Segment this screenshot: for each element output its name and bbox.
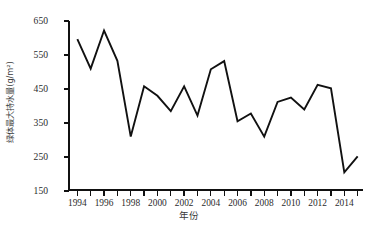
x-tick — [90, 191, 91, 196]
x-tick — [317, 191, 318, 196]
x-tick — [210, 191, 211, 196]
x-tick — [304, 191, 305, 196]
x-tick — [77, 191, 78, 196]
plot-area: 650550450350250150 199419961998200020022… — [68, 21, 363, 191]
data-series-line — [68, 21, 363, 191]
y-tick-label: 650 — [8, 16, 48, 26]
x-tick — [197, 191, 198, 196]
x-tick — [170, 191, 171, 196]
y-tick-label: 550 — [8, 50, 48, 60]
x-tick — [357, 191, 358, 196]
x-tick — [330, 191, 331, 196]
x-tick — [250, 191, 251, 196]
x-tick — [183, 191, 184, 196]
x-tick — [237, 191, 238, 196]
x-tick — [277, 191, 278, 196]
y-tick-label: 450 — [8, 84, 48, 94]
x-tick — [264, 191, 265, 196]
figure-root: 绿体最大持水量(g/m²) 650550450350250150 1994199… — [0, 0, 378, 250]
x-tick-label: 2014 — [327, 199, 361, 208]
x-tick — [344, 191, 345, 196]
x-tick — [157, 191, 158, 196]
y-tick-label: 350 — [8, 118, 48, 128]
x-axis-title: 年份 — [0, 208, 378, 222]
x-tick — [117, 191, 118, 196]
y-tick-label: 150 — [8, 186, 48, 196]
x-tick — [143, 191, 144, 196]
x-tick — [290, 191, 291, 196]
x-tick — [224, 191, 225, 196]
x-tick — [103, 191, 104, 196]
x-tick — [130, 191, 131, 196]
y-tick-label: 250 — [8, 152, 48, 162]
